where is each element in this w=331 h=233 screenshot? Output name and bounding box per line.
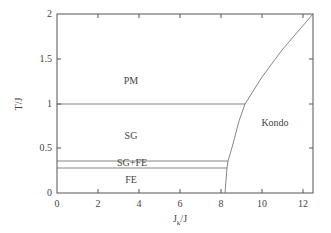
svg-text:4: 4 — [137, 198, 142, 209]
y-axis-label: T/J — [13, 98, 24, 111]
kondo-boundary — [225, 14, 313, 193]
svg-text:10: 10 — [257, 198, 267, 209]
label-sg: SG — [125, 130, 138, 141]
label-sgfe: SG+FE — [117, 157, 147, 168]
svg-text:0: 0 — [55, 198, 60, 209]
region-labels: PM SG SG+FE FE Kondo — [117, 75, 289, 185]
svg-text:0.5: 0.5 — [40, 142, 53, 153]
phase-diagram: 0 2 4 6 8 10 12 0 0.5 1 1.5 2 Jk/J T/J P… — [0, 0, 331, 233]
phase-boundaries — [57, 14, 313, 193]
x-axis-label: Jk/J — [173, 213, 187, 227]
svg-text:12: 12 — [298, 198, 308, 209]
x-tick-labels: 0 2 4 6 8 10 12 — [55, 198, 309, 209]
svg-text:0: 0 — [47, 187, 52, 198]
svg-text:2: 2 — [96, 198, 101, 209]
label-kondo: Kondo — [261, 117, 288, 128]
svg-text:1.5: 1.5 — [40, 53, 53, 64]
svg-text:2: 2 — [47, 8, 52, 19]
label-fe: FE — [125, 174, 137, 185]
svg-text:1: 1 — [47, 98, 52, 109]
y-tick-labels: 0 0.5 1 1.5 2 — [40, 8, 53, 198]
svg-text:8: 8 — [219, 198, 224, 209]
label-pm: PM — [124, 75, 139, 86]
svg-text:6: 6 — [178, 198, 183, 209]
y-ticks — [57, 59, 313, 148]
plot-frame — [57, 14, 313, 193]
